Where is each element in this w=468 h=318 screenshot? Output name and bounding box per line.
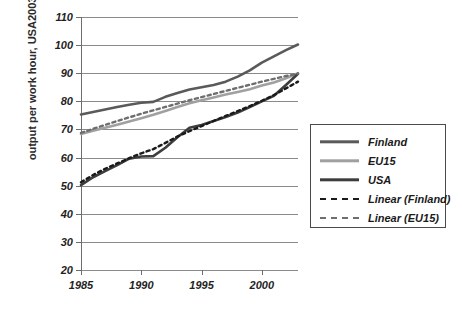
x-tick [202,270,203,275]
y-tick-label: 80 [61,95,73,107]
legend-label: Finland [368,136,407,148]
legend-label: EU15 [368,155,396,167]
legend-label: Linear (EU15) [368,212,439,224]
x-tick [81,270,82,275]
y-tick-label: 70 [61,123,73,135]
y-tick-label: 110 [55,11,73,23]
legend-swatch-icon [320,155,359,167]
x-tick-label: 1985 [69,279,93,291]
plot-area: 1101009080706050403020 1985199019952000 [81,17,298,270]
y-tick-label: 60 [61,152,73,164]
legend-item-linear-finland[interactable]: Linear (Finland) [311,189,445,208]
x-tick-label: 1995 [189,279,213,291]
line-chart: output per work hour, USA2003=100 110100… [0,0,468,318]
y-tick-label: 100 [55,39,73,51]
y-tick-label: 50 [61,180,73,192]
legend-label: Linear (Finland) [368,193,451,205]
chart-legend: FinlandEU15USALinear (Finland)Linear (EU… [310,124,446,228]
series-lines [81,17,298,270]
legend-item-finland[interactable]: Finland [311,132,445,151]
x-tick [141,270,142,275]
x-tick-label: 1990 [129,279,153,291]
legend-label: USA [368,174,391,186]
legend-item-linear-eu15[interactable]: Linear (EU15) [311,208,445,227]
legend-item-eu15[interactable]: EU15 [311,151,445,170]
legend-swatch-icon [320,174,359,186]
legend-swatch-icon [320,136,359,148]
y-tick-label: 90 [61,67,73,79]
y-tick-label: 20 [61,264,73,276]
x-tick [262,270,263,275]
gridline [81,270,298,271]
y-axis-title: output per work hour, USA2003=100 [26,0,44,171]
legend-item-usa[interactable]: USA [311,170,445,189]
legend-swatch-icon [320,193,359,205]
x-tick-label: 2000 [250,279,274,291]
y-tick-label: 30 [61,236,73,248]
legend-swatch-icon [320,212,359,224]
series-line-eu15 [81,73,298,134]
y-tick-label: 40 [61,208,73,220]
